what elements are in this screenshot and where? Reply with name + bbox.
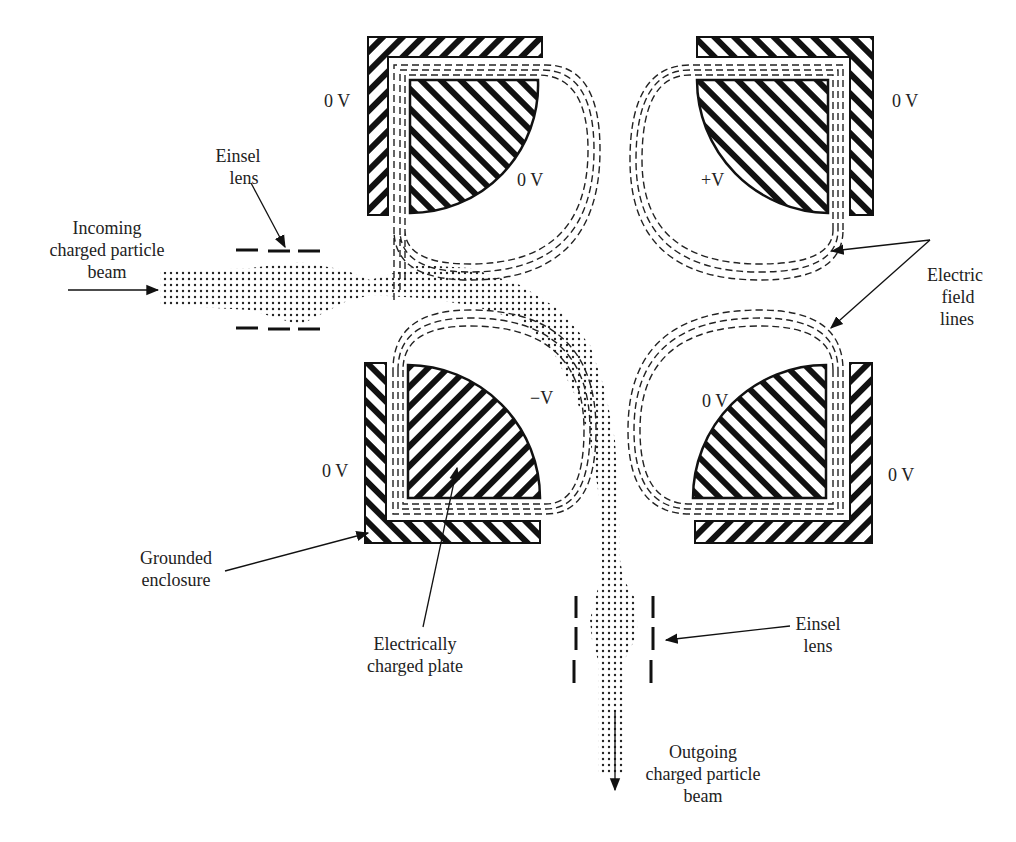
charged-plate-top-left bbox=[410, 80, 538, 213]
bottom-right-electrode-assembly bbox=[628, 310, 872, 543]
arrow-einsel-lens-top bbox=[251, 183, 285, 247]
voltage-top-right-plate: +V bbox=[701, 170, 724, 190]
charged-particle-beam bbox=[160, 262, 638, 775]
label-outgoing-beam-3: beam bbox=[684, 786, 723, 806]
voltage-bottom-left-enclosure: 0 V bbox=[322, 461, 348, 481]
label-einsel-lens-top-2: lens bbox=[230, 168, 259, 188]
arrow-field-lines-lower bbox=[831, 240, 930, 328]
label-incoming-beam-3: beam bbox=[88, 262, 127, 282]
label-einsel-lens-top-1: Einsel bbox=[216, 146, 261, 166]
label-grounded-enclosure-2: enclosure bbox=[142, 570, 211, 590]
label-einsel-lens-bottom-1: Einsel bbox=[796, 614, 841, 634]
voltage-top-left-plate: 0 V bbox=[517, 170, 543, 190]
label-grounded-enclosure-1: Grounded bbox=[140, 548, 212, 568]
charged-plate-bottom-right bbox=[693, 365, 826, 498]
charged-plate-bottom-left bbox=[408, 365, 540, 498]
voltage-bottom-right-enclosure: 0 V bbox=[888, 465, 914, 485]
charged-plate-top-right bbox=[697, 80, 828, 213]
top-right-electrode-assembly bbox=[630, 37, 873, 280]
label-charged-plate-2: charged plate bbox=[367, 656, 463, 676]
voltage-bottom-left-plate: −V bbox=[530, 388, 553, 408]
voltage-top-right-enclosure: 0 V bbox=[892, 91, 918, 111]
arrow-einsel-lens-bottom bbox=[666, 626, 790, 640]
label-field-lines-3: lines bbox=[940, 309, 974, 329]
label-einsel-lens-bottom-2: lens bbox=[804, 636, 833, 656]
label-charged-plate-1: Electrically bbox=[374, 634, 457, 654]
arrow-field-lines-upper bbox=[832, 240, 930, 251]
voltage-bottom-right-plate: 0 V bbox=[702, 391, 728, 411]
voltage-top-left-enclosure: 0 V bbox=[324, 91, 350, 111]
quadrupole-deflector-diagram: 0 V 0 V +V 0 V −V 0 V 0 V 0 V Einsel len… bbox=[0, 0, 1016, 842]
label-outgoing-beam-2: charged particle bbox=[645, 764, 760, 784]
label-field-lines-1: Electric bbox=[927, 265, 983, 285]
label-field-lines-2: field bbox=[942, 287, 975, 307]
label-outgoing-beam-1: Outgoing bbox=[669, 742, 737, 762]
top-left-electrode-assembly bbox=[368, 37, 600, 300]
label-incoming-beam-2: charged particle bbox=[49, 240, 164, 260]
arrow-grounded-enclosure bbox=[225, 533, 368, 571]
label-incoming-beam-1: Incoming bbox=[73, 218, 142, 238]
